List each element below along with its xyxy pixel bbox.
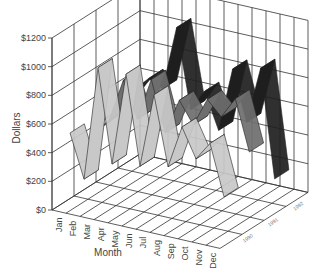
x-tick-label: Mar [82,224,92,240]
y-axis-ticks: $0$200$400$600$800$1000$1200 [21,33,52,215]
y-tick-label: $1200 [21,33,46,43]
y-axis-title: Dollars [11,112,22,143]
depth-axis-ticks: 199019911992 [241,200,304,244]
y-tick-label: $0 [36,205,46,215]
3d-ribbon-chart: $0$200$400$600$800$1000$1200 JanFebMarAp… [0,0,321,271]
y-tick-label: $800 [26,90,46,100]
y-tick-label: $600 [26,119,46,129]
x-tick-label: Aug [152,240,162,256]
x-tick-label: Jun [124,234,134,249]
chart-ribbons [70,18,289,196]
x-axis-ticks: JanFebMarAprMayJunJulAugSepOctNovDec [54,218,218,269]
x-tick-label: Feb [68,221,78,237]
y-tick-label: $1000 [21,62,46,72]
x-tick-label: Dec [208,252,218,269]
x-tick-label: Jul [138,237,148,249]
x-tick-label: Sep [166,243,176,259]
x-axis-title: Month [94,247,122,258]
y-tick-label: $200 [26,176,46,186]
x-tick-label: Jan [54,218,64,233]
y-tick-label: $400 [26,148,46,158]
x-tick-label: Nov [194,249,204,266]
x-tick-label: Apr [96,227,106,241]
x-tick-label: May [110,230,120,248]
x-tick-label: Oct [180,246,190,261]
